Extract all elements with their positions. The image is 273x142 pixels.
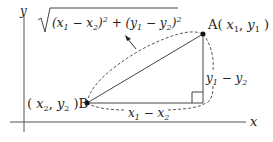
horizontal-leg-label: x1 − x2 xyxy=(128,106,169,122)
y-axis-label: y xyxy=(19,4,27,18)
x-axis-label: x xyxy=(250,114,258,129)
horizontal-brace xyxy=(87,103,125,110)
vertical-brace-lower xyxy=(207,86,213,103)
distance-diagram: x y (x1 − x2)2 + (y1 − y2)2 A( x1, y1 ) … xyxy=(0,0,273,142)
right-angle-marker xyxy=(192,92,203,103)
point-a-label: A( x1, y1 ) xyxy=(207,17,269,34)
distance-formula: (x1 − x2)2 + (y1 − y2)2 xyxy=(52,15,181,32)
vertical-leg-label: y1 − y2 xyxy=(205,71,247,87)
point-a xyxy=(201,32,206,37)
arrow-head-icon xyxy=(125,35,131,41)
vertical-brace xyxy=(203,34,213,70)
hypotenuse xyxy=(87,34,203,103)
point-b-label: ( x2, y2 )B xyxy=(27,96,88,113)
